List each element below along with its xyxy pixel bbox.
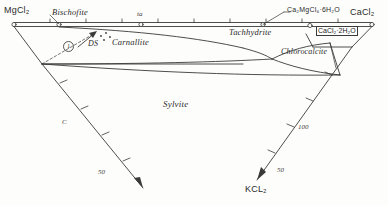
chlorocalcite-lower-edge — [272, 59, 340, 75]
right-axis-tick-100: 100 — [298, 123, 309, 131]
left-axis-label-c: C — [62, 118, 67, 126]
compound-label-cacl2-2h2o: CaCl₂·2H₂O — [316, 26, 358, 36]
right-axis-to-arrow — [257, 47, 352, 180]
right-axis-ticks — [268, 72, 332, 153]
top-tick-label-ta: ta — [137, 10, 142, 18]
corner-label-cacl2: CaCl₂ — [350, 8, 375, 17]
corner-label-kcl2: KCL₂ — [245, 185, 267, 194]
sylvite-upper-boundary — [42, 64, 340, 75]
field-marker-1: 1 — [63, 41, 74, 52]
corner-label-mgcl2: MgCl₂ — [4, 6, 30, 15]
top-axis-ticks — [50, 19, 338, 23]
compound-label-ca2mgcl6: Ca₂MgCl₆·6H₂O — [287, 6, 340, 13]
carnallite-lower-boundary — [42, 59, 272, 64]
carnallite-upper-boundary — [59, 27, 243, 48]
cacl2-box-left — [306, 34, 313, 47]
field-label-ds: DS — [88, 40, 98, 48]
field-label-sylvite: Sylvite — [163, 100, 188, 109]
field-label-chlorocalcite: Chlorocalcite — [281, 48, 327, 56]
phase-diagram-figure: MgCl₂ CaCl₂ KCL₂ Bischofite Carnallite T… — [0, 0, 388, 206]
left-boundary-upper — [14, 27, 42, 65]
field-label-tachhydrite: Tachhydrite — [229, 28, 272, 37]
field-label-carnallite: Carnallite — [112, 38, 149, 47]
ds-dots — [100, 32, 111, 41]
left-axis-to-arrow — [42, 64, 143, 188]
field-label-bischofite: Bischofite — [52, 8, 88, 17]
tachhydrite-lower-boundary — [243, 48, 272, 59]
right-axis-tick-50: 50 — [277, 166, 284, 174]
left-axis-arrowhead — [134, 177, 143, 188]
left-axis-ticks — [60, 80, 130, 161]
left-axis-tick-50: 50 — [98, 168, 105, 176]
